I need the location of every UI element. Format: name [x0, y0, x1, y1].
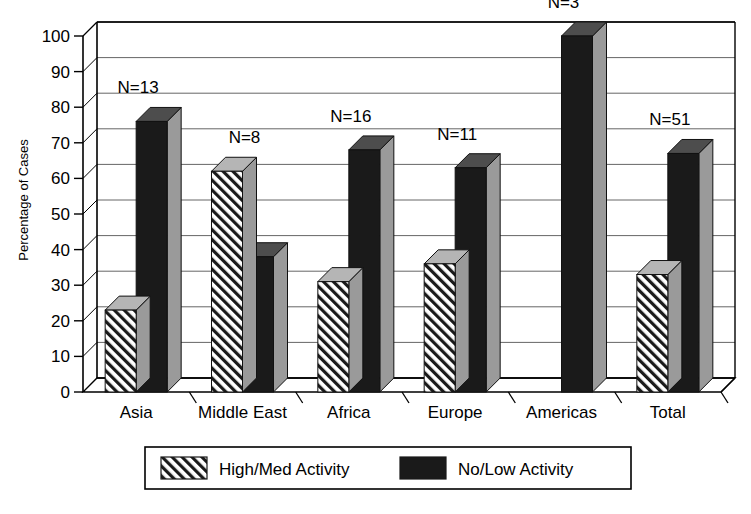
bar-front-face — [105, 310, 136, 392]
bar-front-face — [637, 275, 668, 392]
n-label-middle-east: N=8 — [229, 128, 261, 147]
bar-front-face — [318, 282, 349, 392]
x-axis-label-middle-east: Middle East — [198, 403, 287, 422]
bar-middle-east-high-med — [212, 157, 257, 392]
bar-side-face — [455, 250, 469, 392]
n-label-americas: N=3 — [548, 0, 580, 12]
bar-side-face — [380, 136, 394, 392]
y-tick-label: 90 — [51, 63, 70, 82]
bar-side-face — [699, 139, 713, 392]
y-tick-label: 50 — [51, 205, 70, 224]
y-tick-label: 70 — [51, 134, 70, 153]
n-label-total: N=51 — [649, 110, 690, 129]
n-label-asia: N=13 — [118, 78, 159, 97]
n-label-europe: N=11 — [437, 125, 477, 144]
legend-label-no-low: No/Low Activity — [458, 460, 574, 479]
x-axis-label-asia: Asia — [120, 403, 154, 422]
y-tick-label: 20 — [51, 312, 70, 331]
bar-side-face — [167, 107, 181, 392]
y-tick-label: 80 — [51, 98, 70, 117]
bar-side-face — [243, 157, 257, 392]
bar-asia-high-med — [105, 296, 150, 392]
bar-chart: 0102030405060708090100 AsiaMiddle EastAf… — [0, 0, 751, 514]
bar-side-face — [349, 268, 363, 392]
chart-legend: High/Med Activity No/Low Activity — [145, 447, 631, 489]
bar-side-face — [274, 243, 288, 392]
y-tick-label: 10 — [51, 347, 70, 366]
bar-americas-no-low — [562, 22, 607, 392]
bar-side-face — [593, 22, 607, 392]
y-tick-label: 100 — [42, 27, 70, 46]
solid-swatch — [400, 457, 446, 479]
bar-europe-high-med — [424, 250, 469, 392]
y-tick-label: 0 — [61, 383, 70, 402]
y-tick-label: 60 — [51, 169, 70, 188]
n-label-africa: N=16 — [330, 107, 371, 126]
bar-side-face — [486, 154, 500, 392]
legend-label-high-med: High/Med Activity — [219, 460, 350, 479]
bar-front-face — [562, 36, 593, 392]
bar-side-face — [668, 261, 682, 392]
y-tick-label: 30 — [51, 276, 70, 295]
chart-container: 0102030405060708090100 AsiaMiddle EastAf… — [0, 0, 751, 514]
bar-africa-high-med — [318, 268, 363, 392]
bar-front-face — [212, 171, 243, 392]
bar-side-face — [136, 296, 150, 392]
x-axis-label-americas: Americas — [526, 403, 597, 422]
y-axis-title: Percentage of Cases — [16, 139, 31, 261]
x-axis-label-europe: Europe — [428, 403, 483, 422]
x-axis-label-total: Total — [650, 403, 686, 422]
bar-total-high-med — [637, 261, 682, 392]
x-axis-label-africa: Africa — [327, 403, 371, 422]
bar-front-face — [424, 264, 455, 392]
y-tick-label: 40 — [51, 241, 70, 260]
hatched-swatch — [161, 457, 207, 479]
